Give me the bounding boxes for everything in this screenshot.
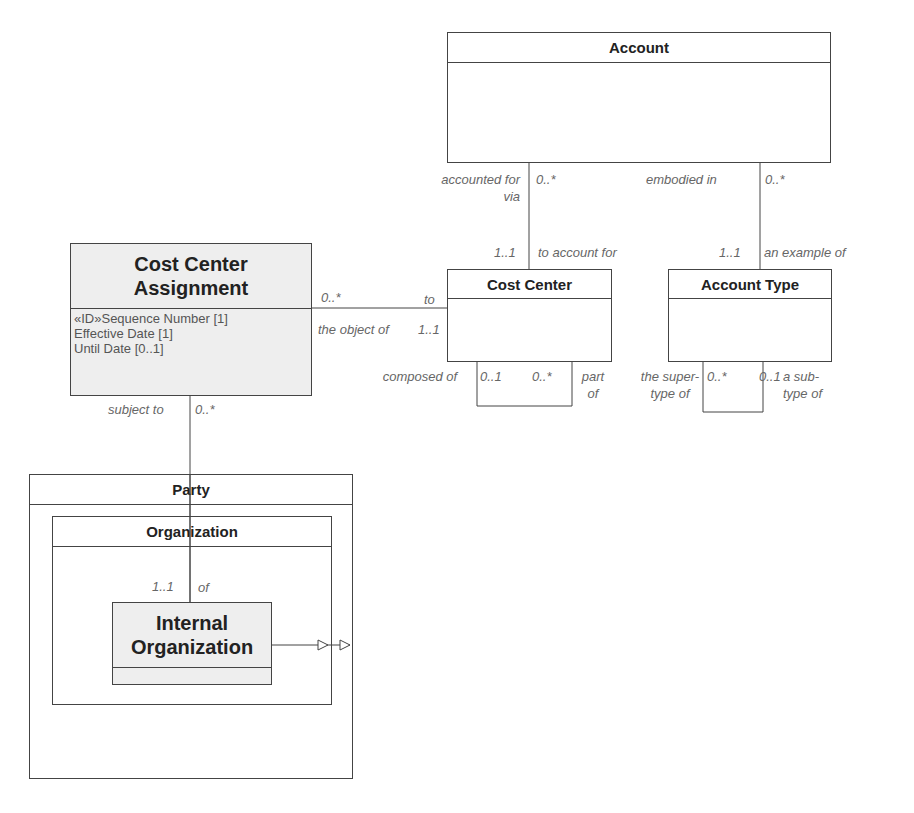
class-internal-organization-title: Internal Organization [113,603,271,668]
mult-cca-0-many: 0..* [321,290,341,306]
class-account[interactable]: Account [447,32,831,163]
mult-cc-self-0-many: 0..* [532,369,552,385]
role-subject-to: subject to [108,402,164,418]
class-account-type-title: Account Type [669,270,831,299]
class-account-title: Account [448,33,830,63]
role-embodied-in: embodied in [646,172,717,188]
mult-account-type-0-many: 0..* [765,172,785,188]
role-a-sub-type-of: a sub-type of [783,368,833,402]
attribute-sequence-number: «ID»Sequence Number [1] [74,311,308,326]
class-cost-center[interactable]: Cost Center [447,269,612,362]
role-accounted-for-via: accounted for via [430,171,520,205]
role-the-super-type-of: the super-type of [640,368,700,402]
role-part-of: part of [578,368,608,402]
class-account-type[interactable]: Account Type [668,269,832,362]
role-of: of [198,580,209,596]
class-party-title: Party [30,475,352,505]
mult-io-1-1: 1..1 [152,579,174,595]
mult-at-self-0-1: 0..1 [759,369,781,385]
class-cost-center-title: Cost Center [448,270,611,299]
mult-cc-1-1-b: 1..1 [418,322,440,338]
attribute-effective-date: Effective Date [1] [74,326,308,341]
class-cost-center-assignment[interactable]: Cost Center Assignment «ID»Sequence Numb… [70,243,312,396]
role-to: to [424,292,435,308]
class-internal-organization[interactable]: Internal Organization [112,602,272,685]
mult-account-cc-0-many: 0..* [536,172,556,188]
class-organization-title: Organization [53,517,331,547]
mult-cc-self-0-1: 0..1 [480,369,502,385]
mult-at-self-0-many: 0..* [707,369,727,385]
attribute-until-date: Until Date [0..1] [74,341,308,356]
role-to-account-for: to account for [538,245,617,261]
role-composed-of: composed of [375,368,465,385]
attribute-list: «ID»Sequence Number [1] Effective Date [… [71,309,311,358]
mult-cca-io-0-many: 0..* [195,402,215,418]
role-an-example-of: an example of [764,245,846,261]
mult-cc-1-1: 1..1 [494,245,516,261]
role-the-object-of: the object of [318,322,389,338]
mult-account-type-1-1: 1..1 [719,245,741,261]
class-cost-center-assignment-title: Cost Center Assignment [71,244,311,309]
